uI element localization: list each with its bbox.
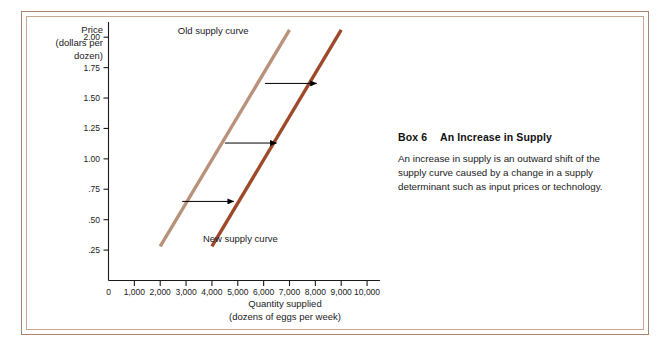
caption-body: An increase in supply is an outward shif… xyxy=(398,152,626,195)
caption-title: Box 6An Increase in Supply xyxy=(398,131,626,143)
y-axis-title-line3: dozen) xyxy=(74,50,103,61)
supply-curve-label: New supply curve xyxy=(203,233,278,244)
y-axis-title: Price (dollars per dozen) xyxy=(55,24,103,61)
supply-curve-line xyxy=(212,30,341,247)
x-axis-tick-labels: 01,0002,0003,0004,0005,0006,0007,0008,00… xyxy=(106,287,380,297)
x-tick-label: 2,000 xyxy=(150,287,172,297)
x-tick-label: 1,000 xyxy=(124,287,146,297)
caption-box-number: Box 6 xyxy=(398,131,427,143)
caption-block: Box 6An Increase in Supply An increase i… xyxy=(398,131,626,195)
x-tick-label: 7,000 xyxy=(279,287,301,297)
y-axis-ticks xyxy=(104,37,109,250)
supply-curve-series xyxy=(160,30,341,247)
figure-root: .25.50.751.001.251.501.752.00 01,0002,00… xyxy=(0,0,667,354)
x-tick-label: 9,000 xyxy=(331,287,353,297)
x-tick-label: 0 xyxy=(106,287,111,297)
x-axis-ticks xyxy=(134,281,367,287)
x-tick-label: 10,000 xyxy=(354,287,380,297)
y-tick-label: 1.75 xyxy=(83,63,100,73)
y-tick-label: 1.25 xyxy=(83,123,100,133)
y-axis-tick-labels: .25.50.751.001.251.501.752.00 xyxy=(83,32,100,255)
x-axis-title-line1: Quantity supplied xyxy=(248,298,321,309)
y-tick-label: .75 xyxy=(88,184,100,194)
x-tick-label: 6,000 xyxy=(253,287,275,297)
y-tick-label: 1.00 xyxy=(83,154,100,164)
x-tick-label: 5,000 xyxy=(227,287,249,297)
caption-title-text: An Increase in Supply xyxy=(440,131,552,143)
y-axis-title-line2: (dollars per xyxy=(55,37,103,48)
x-tick-label: 8,000 xyxy=(305,287,327,297)
y-tick-label: .25 xyxy=(88,245,100,255)
y-tick-label: 1.50 xyxy=(83,93,100,103)
x-axis-title-line2: (dozens of eggs per week) xyxy=(229,311,341,322)
x-tick-label: 3,000 xyxy=(175,287,197,297)
y-tick-label: .50 xyxy=(88,215,100,225)
y-axis-title-line1: Price xyxy=(81,24,103,35)
x-axis-title: Quantity supplied (dozens of eggs per we… xyxy=(229,298,341,322)
supply-curve-line xyxy=(160,30,289,247)
supply-curve-label: Old supply curve xyxy=(178,25,249,36)
x-tick-label: 4,000 xyxy=(201,287,223,297)
